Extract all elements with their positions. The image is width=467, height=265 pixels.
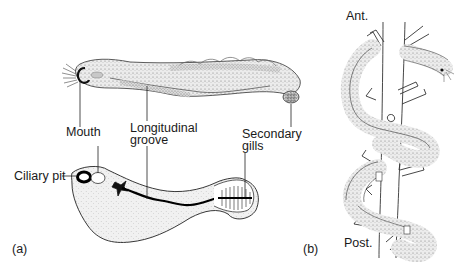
label-anterior: Ant.	[346, 10, 368, 23]
label-secondary-gills-line2: gills	[242, 140, 264, 153]
figure: Mouth Longitudinal groove Secondary gill…	[0, 0, 467, 265]
ventral-view-worm	[72, 166, 259, 242]
panel-tag-a: (a)	[12, 243, 27, 256]
lateral-view-worm	[62, 57, 300, 103]
label-posterior: Post.	[344, 237, 373, 250]
ventral-mouth	[91, 173, 105, 184]
label-longitudinal-groove-line2: groove	[130, 134, 168, 147]
label-mouth: Mouth	[66, 126, 101, 139]
coiled-worm	[346, 46, 454, 253]
ciliary-pit	[78, 172, 91, 182]
head-cilia	[62, 64, 78, 87]
panel-tag-b: (b)	[303, 243, 318, 256]
label-ciliary-pit: Ciliary pit	[14, 170, 65, 183]
